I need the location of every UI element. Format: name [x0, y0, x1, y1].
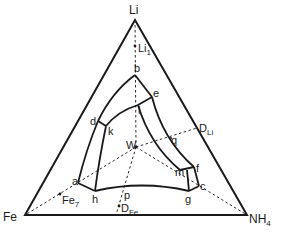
dashed-line-w-dli: [136, 128, 197, 147]
point-fe7: [59, 193, 62, 196]
label-d: d: [90, 115, 96, 127]
outer-boundary-b-d: [98, 75, 135, 121]
label-h: h: [92, 193, 98, 205]
label-a: a: [72, 175, 79, 187]
label-fe7: Fe7: [62, 194, 80, 209]
ternary-diagram: Li Fe NH4 Li1 b e l d k W DLi q m f c g …: [0, 0, 283, 238]
outer-boundary-e-f: [152, 97, 194, 167]
edge-m-g: [187, 170, 189, 191]
label-li: Li: [129, 3, 138, 17]
label-e: e: [153, 87, 159, 99]
label-g: g: [185, 193, 191, 205]
label-w: W: [126, 139, 137, 151]
label-c: c: [200, 180, 206, 192]
label-m: m: [175, 166, 184, 178]
bottom-curve-h-g: [95, 186, 189, 192]
label-k: k: [108, 125, 114, 137]
edge-d-k: [98, 121, 106, 126]
inner-curve-l-k: [106, 105, 138, 126]
label-q: q: [171, 134, 177, 146]
edge-a-h: [78, 183, 95, 191]
dashed-line-w-nh4: [136, 147, 247, 215]
outer-boundary-d-a: [78, 121, 98, 183]
edge-c-g: [189, 186, 199, 191]
dashed-line-li-w: [135, 20, 136, 147]
point-dfe: [118, 205, 121, 208]
edge-b-e: [135, 75, 152, 97]
label-f: f: [196, 162, 200, 174]
label-b: b: [134, 62, 140, 74]
inner-curve-k-h: [95, 126, 106, 191]
label-p: p: [124, 189, 130, 201]
point-li1: [134, 45, 137, 48]
label-l: l: [138, 104, 140, 116]
label-fe: Fe: [3, 210, 17, 224]
label-nh4: NH4: [249, 212, 271, 228]
